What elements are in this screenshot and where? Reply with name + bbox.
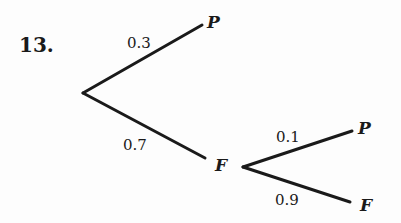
tree-diagram: 13. 0.3 0.7 0.1 0.9 P F P F [0, 0, 401, 223]
prob-label-0-7: 0.7 [123, 136, 147, 154]
prob-label-0-9: 0.9 [275, 191, 299, 209]
node-p-top: P [206, 12, 221, 32]
tree-svg: 13. 0.3 0.7 0.1 0.9 P F P F [0, 0, 401, 223]
problem-number: 13. [19, 33, 54, 57]
node-f-right: F [359, 195, 374, 215]
node-f-mid: F [214, 155, 229, 175]
node-p-right: P [357, 118, 372, 138]
prob-label-0-1: 0.1 [276, 128, 300, 146]
prob-label-0-3: 0.3 [127, 34, 151, 52]
